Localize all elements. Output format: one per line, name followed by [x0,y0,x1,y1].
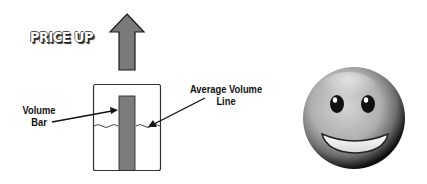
average-volume-label-line2: Line [184,95,269,107]
volume-bar-label: Volume Bar [18,104,61,128]
right-eye [361,95,375,113]
volume-bar-label-line1: Volume [18,104,61,116]
up-arrow-icon [110,14,144,70]
average-volume-line-label: Average Volume Line [184,83,269,107]
average-volume-label-line1: Average Volume [184,83,269,95]
price-up-headline: PRICE UP [30,29,93,47]
left-eye [330,95,344,113]
smiley-face-icon [303,67,405,169]
volume-chart-box [94,85,161,171]
volume-bar [119,96,135,171]
volume-bar-label-line2: Bar [18,116,61,128]
